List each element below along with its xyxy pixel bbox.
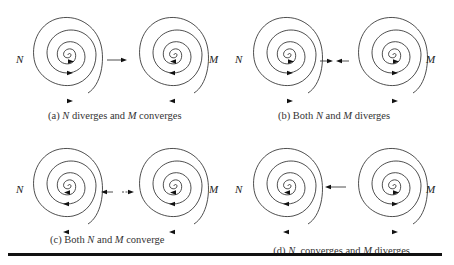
label-m-a: M [209,53,218,65]
spiral-m [140,148,209,232]
label-n-a: N [16,53,23,65]
spiral-n [254,17,323,101]
panel-b [254,17,428,101]
spiral-m [359,17,428,101]
label-n-d: N [235,183,242,195]
label-m-b: M [426,53,435,65]
label-n-c: N [16,183,23,195]
label-m-c: M [209,183,218,195]
spiral-m [140,17,209,101]
spiral-n [34,17,103,101]
panel-a [34,17,209,101]
spiral-m [359,148,428,232]
spiral-n [34,148,103,232]
caption-b: (b) Both N and M diverges [278,110,390,121]
panel-d [254,148,428,232]
caption-a: (a) N diverges and M converges [48,110,181,121]
spiral-diagram [0,0,454,265]
caption-c: (c) Both N and M converge [50,234,164,245]
spiral-n [254,148,323,232]
label-m-d: M [426,183,435,195]
panel-c [34,148,209,232]
bottom-rule [8,253,442,256]
label-n-b: N [235,53,242,65]
